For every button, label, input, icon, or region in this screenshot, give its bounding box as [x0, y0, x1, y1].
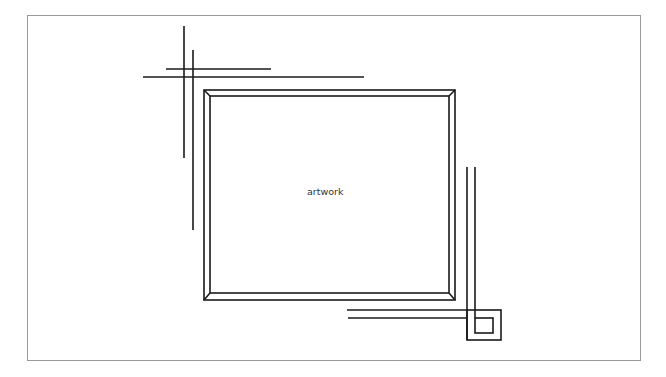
frame-bevel-bottom-right: [449, 293, 455, 300]
frame-bevel-bottom-left: [204, 293, 210, 300]
corner-square-inner: [475, 318, 493, 333]
frame-bevel-top-right: [449, 90, 455, 96]
crop-marks-top-left: [143, 26, 364, 230]
corner-square-outer: [467, 310, 501, 340]
crop-marks-bottom-right: [347, 167, 501, 340]
artwork-label: artwork: [307, 186, 343, 197]
frame-bevel-top-left: [204, 90, 210, 96]
